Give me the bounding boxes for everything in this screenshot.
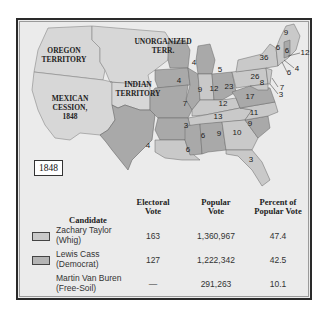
header-popular: PopularVote bbox=[186, 198, 246, 216]
ev-arkansas: 3 bbox=[184, 121, 189, 130]
ev-new-york: 36 bbox=[260, 53, 269, 62]
table-row: Zachary Taylor(Whig) 163 1,360,967 47.4 bbox=[18, 224, 310, 248]
ev-michigan: 5 bbox=[218, 65, 223, 74]
table-row: Lewis Cass(Democrat) 127 1,222,342 42.5 bbox=[18, 248, 310, 272]
ev-ohio: 23 bbox=[225, 82, 234, 91]
whig-swatch bbox=[32, 232, 50, 241]
ev-connecticut: 6 bbox=[287, 68, 292, 77]
header-percent: Percent ofPopular Vote bbox=[246, 198, 310, 216]
table-row: Martin Van Buren(Free-Soil) — 291,263 10… bbox=[18, 272, 310, 296]
ev-florida: 3 bbox=[249, 155, 254, 164]
state-new-york bbox=[236, 44, 278, 72]
ev-louisiana: 6 bbox=[186, 145, 191, 154]
ev-georgia: 10 bbox=[233, 128, 242, 137]
ev-indiana: 12 bbox=[210, 84, 219, 93]
ev-vermont: 6 bbox=[276, 43, 281, 52]
state-michigan bbox=[196, 44, 215, 74]
ev-texas: 4 bbox=[146, 141, 151, 150]
ev-maine: 9 bbox=[284, 28, 289, 37]
ev-virginia: 17 bbox=[246, 92, 255, 101]
ev-kentucky: 12 bbox=[219, 99, 228, 108]
year-label: 1848 bbox=[34, 160, 63, 176]
ev-north-carolina: 11 bbox=[250, 108, 259, 117]
ev-missouri: 7 bbox=[183, 99, 188, 108]
ev-illinois: 9 bbox=[198, 85, 203, 94]
ev-new-hampshire: 6 bbox=[285, 46, 290, 55]
ev-massachusetts: 12 bbox=[301, 48, 310, 57]
ev-tennessee: 13 bbox=[214, 112, 223, 121]
label-oregon: OREGONTERRITORY bbox=[41, 46, 87, 64]
ev-wisconsin: 4 bbox=[192, 58, 197, 67]
header-electoral: ElectoralVote bbox=[128, 198, 178, 216]
ev-south-carolina: 9 bbox=[248, 119, 253, 128]
democrat-swatch bbox=[32, 256, 50, 265]
state-iowa bbox=[155, 68, 190, 88]
ev-mississippi: 6 bbox=[201, 131, 206, 140]
ev-delaware: 3 bbox=[279, 90, 284, 99]
ev-rhode-island: 4 bbox=[295, 64, 300, 73]
ev-alabama: 9 bbox=[217, 129, 222, 138]
ev-maryland: 8 bbox=[260, 78, 265, 87]
ev-pennsylvania: 26 bbox=[251, 72, 260, 81]
ev-iowa: 4 bbox=[177, 76, 182, 85]
